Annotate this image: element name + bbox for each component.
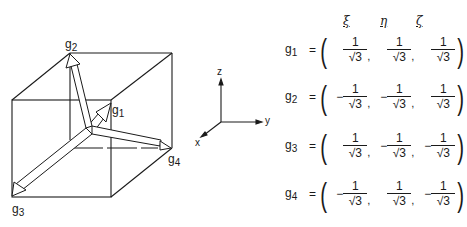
fraction: 1√3 (387, 180, 411, 209)
header-eta: η (380, 14, 387, 28)
fraction: 1√3 (387, 132, 411, 161)
fraction: 1√3 (431, 36, 455, 65)
component-cell: −1√3 (417, 132, 455, 161)
close-paren: ) (458, 80, 465, 114)
vector-name: g4 (285, 186, 307, 202)
equals-sign: = (309, 90, 316, 104)
vector-row-g2: g2=(−1√3,−1√3,1√3) (285, 77, 467, 117)
sign: − (423, 187, 431, 201)
close-paren: ) (458, 33, 465, 67)
vector-arrows (12, 54, 171, 196)
label-g2: g2 (65, 38, 77, 53)
label-g4: g4 (168, 153, 180, 168)
vector-row-g1: g1=(1√3,1√3,1√3) (285, 30, 467, 70)
sign: − (335, 187, 343, 201)
component-cell: 1√3 (329, 132, 367, 161)
axis-label-z: z (217, 67, 222, 77)
close-paren: ) (458, 129, 465, 163)
y-axis-arrow (256, 120, 262, 124)
fraction: 1√3 (343, 36, 367, 65)
equals-sign: = (309, 43, 316, 57)
fraction: 1√3 (387, 83, 411, 112)
sign: − (335, 90, 343, 104)
vector-name: g2 (285, 89, 307, 105)
component-cell: −1√3 (373, 132, 411, 161)
vector-name: g3 (285, 138, 307, 154)
fraction: 1√3 (431, 132, 455, 161)
x-axis-arrow (201, 132, 207, 137)
open-paren: ( (320, 177, 327, 211)
arrow-g4 (160, 141, 171, 150)
label-g1: g1 (112, 104, 124, 119)
component-cell: 1√3 (373, 36, 411, 65)
vector-name: g1 (285, 42, 307, 58)
sign: − (423, 139, 431, 153)
component-cell: −1√3 (417, 180, 455, 209)
fraction: 1√3 (343, 83, 367, 112)
component-cell: −1√3 (329, 180, 367, 209)
equals-sign: = (309, 139, 316, 153)
vector-row-g4: g4=(−1√3,1√3,−1√3) (285, 174, 467, 214)
sign: − (379, 139, 387, 153)
component-cell: −1√3 (373, 83, 411, 112)
fraction: 1√3 (431, 83, 455, 112)
open-paren: ( (320, 33, 327, 67)
label-g3: g3 (12, 203, 24, 218)
axis-label-y: y (265, 116, 270, 126)
vector-row-g3: g3=(1√3,−1√3,−1√3) (285, 126, 467, 166)
equals-sign: = (309, 187, 316, 201)
coordinate-axes (201, 79, 262, 137)
component-cell: 1√3 (373, 180, 411, 209)
sign: − (379, 90, 387, 104)
fraction: 1√3 (431, 180, 455, 209)
z-axis-arrow (219, 79, 223, 85)
component-cell: 1√3 (417, 83, 455, 112)
axis-label-x: x (195, 138, 200, 148)
open-paren: ( (320, 129, 327, 163)
close-paren: ) (458, 177, 465, 211)
component-cell: 1√3 (417, 36, 455, 65)
fraction: 1√3 (343, 180, 367, 209)
fraction: 1√3 (387, 36, 411, 65)
component-cell: 1√3 (329, 36, 367, 65)
fraction: 1√3 (343, 132, 367, 161)
open-paren: ( (320, 80, 327, 114)
header-zeta: ζ (416, 14, 423, 28)
component-cell: −1√3 (329, 83, 367, 112)
header-xi: ξ (343, 14, 350, 28)
